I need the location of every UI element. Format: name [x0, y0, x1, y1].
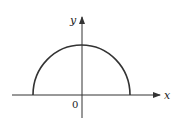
x-axis-label: x: [164, 89, 171, 102]
y-axis-label: y: [69, 14, 77, 27]
semicircle-diagram: y x 0: [0, 0, 177, 121]
origin-label: 0: [72, 99, 78, 110]
